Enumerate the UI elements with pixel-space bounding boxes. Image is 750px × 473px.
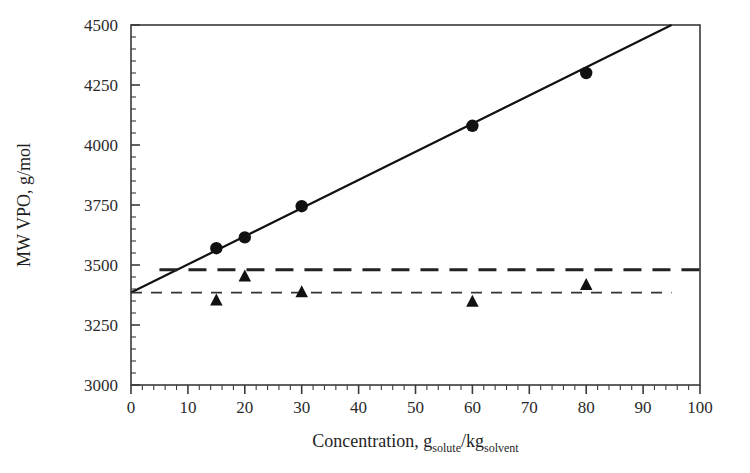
chart-container: 3000325035003750400042504500 01020304050… — [0, 0, 750, 473]
y-tick-label: 4250 — [84, 76, 118, 95]
data-point-triangle — [295, 285, 308, 297]
y-tick-label: 3250 — [84, 316, 118, 335]
data-point-circle — [239, 231, 251, 243]
data-point-triangle — [580, 278, 593, 290]
x-tick-label: 90 — [635, 398, 652, 417]
y-tick-label: 3750 — [84, 196, 118, 215]
x-tick-label: 70 — [521, 398, 538, 417]
data-point-circle — [580, 67, 592, 79]
x-tick-label: 20 — [236, 398, 253, 417]
x-axis-title: Concentration, gsolute/kgsolvent — [312, 431, 519, 455]
y-tick-label: 4000 — [84, 136, 118, 155]
x-tick-label: 10 — [179, 398, 196, 417]
data-point-triangle — [239, 270, 252, 282]
y-tick-label: 3500 — [84, 256, 118, 275]
x-tick-label: 60 — [464, 398, 481, 417]
data-point-triangle — [466, 295, 479, 307]
plot-frame — [131, 25, 700, 385]
data-point-circle — [210, 242, 222, 254]
chart-plot-svg: 3000325035003750400042504500 01020304050… — [0, 0, 750, 473]
y-tick-label: 3000 — [84, 376, 118, 395]
x-tick-label: 80 — [578, 398, 595, 417]
plot-border — [131, 25, 700, 385]
x-axis-tick-labels: 0102030405060708090100 — [127, 398, 713, 417]
data-point-circle — [296, 200, 308, 212]
data-point-triangle — [210, 294, 223, 306]
x-tick-label: 0 — [127, 398, 136, 417]
data-point-circle — [466, 120, 478, 132]
y-tick-label: 4500 — [84, 16, 118, 35]
y-axis-title: MW VPO, g/mol — [14, 143, 34, 267]
axis-titles: MW VPO, g/molConcentration, gsolute/kgso… — [14, 143, 519, 455]
x-axis-ticks — [131, 385, 700, 394]
x-tick-label: 40 — [350, 398, 367, 417]
x-tick-label: 100 — [687, 398, 713, 417]
x-tick-label: 30 — [293, 398, 310, 417]
x-tick-label: 50 — [407, 398, 424, 417]
y-axis-ticks — [131, 25, 140, 385]
y-axis-tick-labels: 3000325035003750400042504500 — [84, 16, 118, 395]
